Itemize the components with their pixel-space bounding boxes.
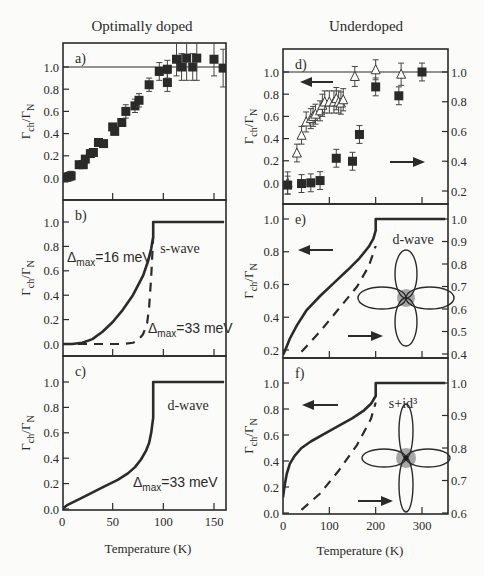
y-axis-title: Γch/ΓN bbox=[241, 109, 259, 144]
y-tick-label: 1.0 bbox=[43, 216, 59, 230]
y-axis-title: Γch/ΓN bbox=[18, 104, 36, 139]
data-point-square bbox=[155, 67, 164, 76]
data-point-triangle bbox=[371, 65, 380, 74]
panel-label: f) bbox=[295, 366, 305, 382]
y-tick-label: 0.8 bbox=[263, 245, 279, 259]
y2-tick-label: 0.7 bbox=[451, 474, 467, 488]
y-tick-label: 0.0 bbox=[43, 172, 59, 186]
data-point-square bbox=[394, 91, 403, 100]
y2-tick-label: 0.4 bbox=[451, 155, 467, 169]
x-tick-label: 100 bbox=[154, 515, 173, 529]
data-point-square bbox=[316, 176, 325, 185]
panel-e: 0.20.40.60.81.00.40.50.60.70.80.91.0e)Γc… bbox=[241, 204, 467, 362]
y-tick-label: 1.0 bbox=[43, 376, 59, 390]
left-axis-arrow bbox=[298, 245, 333, 255]
x-tick-label: 0 bbox=[59, 515, 65, 529]
y-tick-label: 0.4 bbox=[43, 127, 59, 141]
y2-tick-label: 0.8 bbox=[451, 258, 467, 272]
data-point-square bbox=[117, 118, 126, 127]
data-point-square bbox=[172, 55, 181, 64]
annotation-d-wave: d-wave bbox=[167, 398, 208, 413]
panel-label: e) bbox=[295, 212, 306, 228]
x-tick-label: 100 bbox=[320, 519, 339, 533]
y-axis-title: Γch/ΓN bbox=[241, 263, 259, 298]
y-tick-label: 1.0 bbox=[263, 66, 279, 80]
y-tick-label: 0.8 bbox=[263, 88, 279, 102]
y-tick-label: 1.0 bbox=[263, 377, 279, 391]
data-point-square bbox=[332, 154, 341, 163]
y-axis-title: Γch/ΓN bbox=[18, 415, 36, 450]
annotation-delta-33: Δmax=33 meV bbox=[148, 320, 233, 339]
annotation-delta-33: Δmax=33 meV bbox=[133, 474, 218, 493]
data-point-triangle bbox=[292, 148, 301, 157]
y2-tick-label: 0.9 bbox=[451, 235, 467, 249]
y-tick-label: 0.2 bbox=[263, 154, 279, 168]
data-point-square bbox=[99, 139, 108, 148]
y-axis-title: Γch/ΓN bbox=[18, 260, 36, 295]
panel-label: d) bbox=[295, 57, 307, 73]
panel-label: b) bbox=[75, 208, 87, 224]
y-tick-label: 0.0 bbox=[263, 177, 279, 191]
y-tick-label: 0.4 bbox=[263, 311, 279, 325]
data-point-triangle bbox=[397, 69, 406, 78]
data-point-square bbox=[163, 65, 172, 74]
data-point-square bbox=[145, 80, 154, 89]
data-point-square bbox=[182, 54, 191, 63]
y-tick-label: 0.0 bbox=[263, 507, 279, 521]
y2-tick-label: 0.4 bbox=[451, 348, 467, 362]
y2-tick-label: 0.6 bbox=[451, 303, 467, 317]
data-point-square bbox=[306, 178, 315, 187]
y2-tick-label: 0.6 bbox=[451, 507, 467, 521]
figure: Optimally doped Underdoped 0.00.20.40.60… bbox=[0, 0, 484, 576]
data-point-square bbox=[110, 127, 119, 136]
y-tick-label: 0.8 bbox=[43, 240, 59, 254]
x-axis-title-left: Temperature (K) bbox=[105, 541, 192, 556]
y-axis-title: Γch/ΓN bbox=[241, 418, 259, 453]
panel-b: 0.00.20.40.60.81.0b)Γch/ΓNs-waveΔmax=16 … bbox=[18, 200, 233, 356]
y-tick-label: 0.0 bbox=[43, 338, 59, 352]
y2-tick-label: 0.7 bbox=[451, 280, 467, 294]
data-point-square bbox=[89, 148, 98, 157]
data-point-square bbox=[418, 68, 427, 77]
data-point-square bbox=[163, 78, 172, 87]
y2-tick-label: 0.5 bbox=[451, 325, 467, 339]
dashed-curve bbox=[302, 403, 376, 510]
right-axis-arrow bbox=[358, 496, 393, 506]
solid-curve bbox=[283, 383, 445, 497]
y-tick-label: 0.2 bbox=[263, 344, 279, 358]
y-tick-label: 0.0 bbox=[43, 503, 59, 517]
x-tick-label: 150 bbox=[205, 515, 224, 529]
y2-tick-label: 1.0 bbox=[451, 377, 467, 391]
plot-area: 0.00.20.40.60.81.0a)Γch/ΓN0.00.20.40.60.… bbox=[18, 36, 467, 533]
column-title-underdoped: Underdoped bbox=[329, 18, 404, 34]
panel-frame bbox=[283, 204, 448, 358]
y-tick-label: 0.2 bbox=[263, 481, 279, 495]
y-tick-label: 0.6 bbox=[263, 278, 279, 292]
panel-frame bbox=[283, 358, 448, 514]
data-point-square bbox=[297, 179, 306, 188]
annotation-d-wave: d-wave bbox=[392, 232, 433, 247]
y-tick-label: 0.4 bbox=[43, 452, 59, 466]
y2-tick-label: 0.9 bbox=[451, 409, 467, 423]
data-point-square bbox=[192, 54, 201, 63]
x-tick-label: 50 bbox=[106, 515, 119, 529]
y-tick-label: 0.6 bbox=[263, 429, 279, 443]
y-tick-label: 0.2 bbox=[43, 477, 59, 491]
y-tick-label: 0.4 bbox=[263, 455, 279, 469]
y-tick-label: 0.6 bbox=[43, 426, 59, 440]
annotation-s-plus-id: s+id³ bbox=[389, 396, 417, 411]
panel-f: 01002003000.00.20.40.60.81.00.60.70.80.9… bbox=[241, 358, 467, 533]
s-plus-id-gap-inset-icon bbox=[362, 404, 450, 512]
y-tick-label: 0.2 bbox=[43, 149, 59, 163]
x-tick-label: 300 bbox=[413, 519, 432, 533]
left-axis-arrow bbox=[302, 400, 338, 410]
data-point-square bbox=[371, 82, 380, 91]
y2-tick-label: 0.6 bbox=[451, 125, 467, 139]
y-tick-label: 0.2 bbox=[43, 313, 59, 327]
x-axis-title-right: Temperature (K) bbox=[317, 543, 404, 558]
panel-d: 0.00.20.40.60.81.00.20.40.60.81.0d)Γch/Γ… bbox=[241, 49, 467, 204]
y-tick-label: 0.8 bbox=[43, 401, 59, 415]
y2-tick-label: 1.0 bbox=[451, 213, 467, 227]
y-tick-label: 0.4 bbox=[263, 132, 279, 146]
data-point-square bbox=[177, 63, 186, 72]
